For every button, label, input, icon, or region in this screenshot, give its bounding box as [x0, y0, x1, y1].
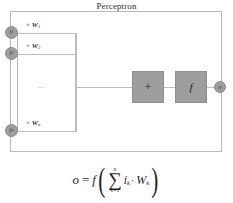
input-lead-line-n — [12, 131, 77, 132]
weight-multiply-sign-1: × — [26, 21, 30, 29]
formula-summation: n ∑ k=1 — [108, 167, 122, 193]
input-node-n: in — [5, 124, 18, 137]
input-node-1: i1 — [5, 26, 18, 39]
summation-box: + — [132, 71, 164, 103]
weight-multiply-sign-2: × — [26, 42, 30, 50]
weight-bus-line — [76, 33, 77, 132]
perceptron-diagram: Perceptron i1 i2 in × W1 × W2 × Wn ... +… — [0, 0, 233, 203]
formula-sigma-lower-limit: k=1 — [111, 188, 120, 194]
formula-open-paren: ( — [98, 163, 105, 197]
diagram-title: Perceptron — [0, 1, 233, 11]
perceptron-formula: o = f ( n ∑ k=1 ik · Wk ) — [0, 157, 233, 203]
formula-close-paren: ) — [151, 163, 158, 197]
formula-input-term: ik — [124, 173, 130, 188]
formula-equals-sign: = — [82, 172, 89, 188]
formula-dot-operator: · — [131, 175, 134, 186]
output-node: o — [214, 81, 226, 93]
weight-subscript-2: 2 — [38, 45, 41, 50]
formula-weight-symbol: W — [136, 173, 146, 187]
input-lead-line-1 — [12, 33, 77, 34]
weight-label-2: × W2 — [26, 42, 40, 50]
activation-box: f — [175, 71, 207, 103]
formula-output-symbol: o — [72, 172, 79, 188]
sum-to-activation-line — [164, 87, 175, 88]
weight-subscript-1: 1 — [38, 24, 41, 29]
input-node-2: i2 — [5, 47, 18, 60]
weight-subscript-n: n — [38, 122, 41, 127]
output-node-label: o — [219, 84, 222, 90]
formula-weight-subscript: k — [146, 179, 149, 186]
input-node-1-subscript: 1 — [11, 30, 13, 35]
inputs-ellipsis: ... — [38, 82, 45, 90]
weight-multiply-sign-n: × — [26, 119, 30, 127]
formula-input-subscript: k — [127, 179, 130, 186]
activation-box-label: f — [189, 81, 192, 93]
formula-weight-term: Wk — [136, 173, 149, 188]
formula-function-symbol: f — [92, 172, 96, 188]
input-node-2-subscript: 2 — [11, 51, 13, 56]
bus-to-sum-line — [76, 87, 132, 88]
summation-box-label: + — [145, 80, 152, 95]
weight-label-n: × Wn — [26, 119, 40, 127]
formula-sigma-glyph: ∑ — [108, 171, 122, 188]
input-lead-line-2 — [12, 54, 77, 55]
input-node-n-subscript: n — [11, 128, 13, 133]
weight-label-1: × W1 — [26, 21, 40, 29]
